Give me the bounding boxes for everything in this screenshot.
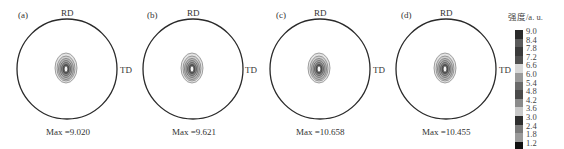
colorbar-swatch (515, 30, 523, 39)
colorbar-title: 强度/a. u. (508, 10, 543, 22)
panel-label: (b) (147, 10, 158, 20)
colorbar-swatch (515, 133, 523, 142)
td-label: TD (373, 65, 385, 75)
max-value: Max =9.621 (172, 127, 216, 137)
colorbar-swatch (515, 39, 523, 48)
colorbar-labels: 9.08.47.87.26.66.05.44.84.23.63.02.41.81… (526, 27, 537, 147)
pole-figure-a: (a) RD TD Max =9.020 (17, 8, 132, 137)
colorbar-swatch (515, 82, 523, 91)
rd-label: RD (440, 8, 453, 18)
colorbar-swatches (515, 30, 523, 149)
colorbar-swatch (515, 47, 523, 56)
colorbar-swatch (515, 73, 523, 82)
td-label: TD (120, 65, 132, 75)
pole-figure-canvas: (a) RD TD Max =9.020 (b) RD TD Max =9.62… (0, 0, 564, 149)
pole-figure-d: (d) RD TD Max =10.455 (396, 8, 511, 137)
pole-figure-c: (c) RD TD Max =10.658 (270, 8, 385, 137)
rd-label: RD (314, 8, 327, 18)
panel-label: (c) (276, 10, 286, 20)
colorbar-swatch (515, 142, 523, 149)
max-value: Max =10.658 (296, 127, 345, 137)
max-value: Max =10.455 (422, 127, 471, 137)
max-value: Max =9.020 (46, 127, 91, 137)
colorbar-swatch (515, 56, 523, 65)
pole-figure-b: (b) RD TD Max =9.621 (143, 8, 257, 137)
td-label: TD (499, 65, 511, 75)
colorbar-swatch (515, 116, 523, 125)
colorbar-swatch (515, 90, 523, 99)
contour-plot (434, 53, 456, 83)
panel-label: (a) (18, 10, 28, 20)
contour-plot (308, 53, 330, 83)
colorbar-swatch (515, 99, 523, 108)
rd-label: RD (61, 8, 74, 18)
contour-plot (181, 53, 203, 83)
panel-label: (d) (401, 10, 412, 20)
colorbar-swatch (515, 64, 523, 73)
colorbar-swatch (515, 107, 523, 116)
pole-figure-set: (a) RD TD Max =9.020 (b) RD TD Max =9.62… (0, 0, 564, 149)
contour-plot (55, 53, 77, 83)
rd-label: RD (187, 8, 200, 18)
td-label: TD (245, 65, 257, 75)
colorbar-swatch (515, 125, 523, 134)
colorbar-tick-label: 1.2 (526, 139, 537, 148)
